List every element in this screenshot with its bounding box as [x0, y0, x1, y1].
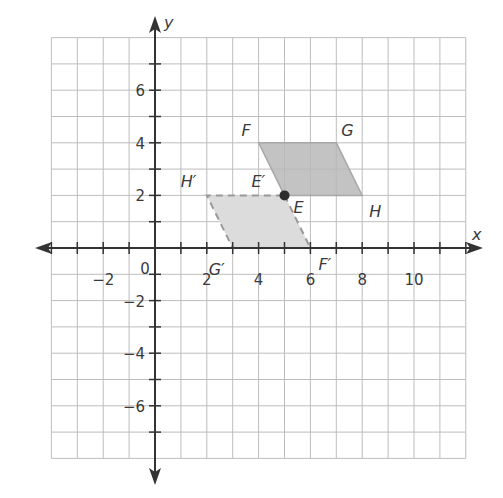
y-tick-label: −4: [123, 345, 145, 363]
x-tick-label: 10: [404, 271, 423, 289]
vertex-label: G: [341, 121, 353, 140]
x-tick-label: 4: [254, 271, 264, 289]
vertex-label: F′: [318, 255, 331, 274]
x-tick-label: 6: [306, 271, 316, 289]
y-tick-label: 4: [135, 135, 145, 153]
y-axis-label: y: [163, 13, 174, 32]
y-tick-label: 6: [135, 82, 145, 100]
x-axis-label: x: [471, 225, 482, 244]
coordinate-plane: xy −2246810642−2−4−60 FGHEE′F′G′H′: [0, 0, 503, 498]
vertex-label: H: [369, 202, 381, 221]
vertex-label: F: [242, 121, 252, 140]
original-parallelogram: [259, 143, 363, 196]
x-tick-label: −2: [92, 271, 114, 289]
x-tick-label: 8: [357, 271, 367, 289]
vertex-label: G′: [209, 260, 225, 279]
vertex-label: H′: [181, 172, 197, 191]
origin-label: 0: [140, 260, 150, 278]
vertex-label: E′: [252, 172, 266, 191]
highlighted-point-e: [280, 190, 290, 200]
y-tick-label: −6: [123, 398, 145, 416]
vertex-label: E: [294, 198, 305, 217]
y-tick-label: 2: [135, 187, 145, 205]
y-tick-label: −2: [123, 293, 145, 311]
